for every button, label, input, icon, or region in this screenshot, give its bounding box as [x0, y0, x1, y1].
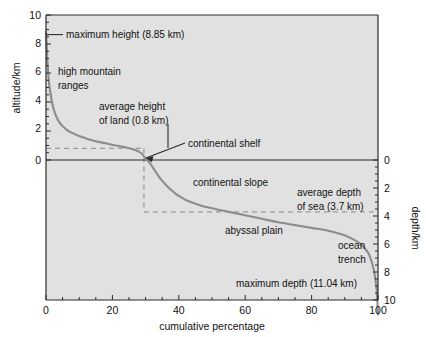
annotation-maximum-height: maximum height (8.85 km): [66, 29, 184, 40]
xtick-100: 100: [369, 304, 387, 316]
annotation-maximum-depth: maximum depth (11.04 km): [236, 278, 357, 289]
annotation-continental-shelf: continental shelf: [188, 138, 260, 149]
ytick-right-8: 8: [384, 266, 390, 278]
xtick-20: 20: [107, 304, 119, 316]
xtick-60: 60: [239, 304, 251, 316]
annotation-average-depth-of-sea-line1: average depth: [297, 187, 361, 198]
xtick-80: 80: [306, 304, 318, 316]
annotation-abyssal-plain: abyssal plain: [225, 225, 283, 236]
ytick-left-6: 6: [35, 65, 41, 77]
y-axis-title-right: depth/km: [410, 206, 422, 249]
annotation-average-depth-of-sea-line2: of sea (3.7 km): [297, 201, 364, 212]
y-axis-title-left: altitude/km: [10, 62, 22, 113]
ytick-right-4: 4: [384, 210, 390, 222]
annotation-ocean-trench-line1: ocean: [338, 240, 365, 251]
annotation-high-mountain-ranges-line2: ranges: [58, 80, 89, 91]
ytick-right-6: 6: [384, 238, 390, 250]
annotation-average-height-of-land-line1: average height: [99, 101, 165, 112]
annotation-average-height-of-land-line2: of land (0.8 km): [99, 115, 168, 126]
ytick-right-0: 0: [384, 154, 390, 166]
hypsographic-curve-figure: 10 8 6 4 2 0 0 2 4 6 8 10 0 20 40 60 80 …: [0, 0, 426, 337]
xtick-0: 0: [43, 304, 49, 316]
chart-svg: 10 8 6 4 2 0 0 2 4 6 8 10 0 20 40 60 80 …: [0, 0, 426, 337]
ytick-left-2: 2: [35, 122, 41, 134]
ytick-left-0: 0: [35, 154, 41, 166]
plot-area-background: [46, 15, 378, 300]
x-axis-title: cumulative percentage: [159, 320, 265, 332]
annotation-ocean-trench-line2: trench: [338, 254, 366, 265]
ytick-left-10: 10: [29, 9, 41, 21]
ytick-left-8: 8: [35, 37, 41, 49]
annotation-continental-slope: continental slope: [193, 177, 268, 188]
ytick-right-2: 2: [384, 182, 390, 194]
xtick-40: 40: [173, 304, 185, 316]
ytick-left-4: 4: [35, 94, 41, 106]
annotation-high-mountain-ranges-line1: high mountain: [58, 66, 121, 77]
